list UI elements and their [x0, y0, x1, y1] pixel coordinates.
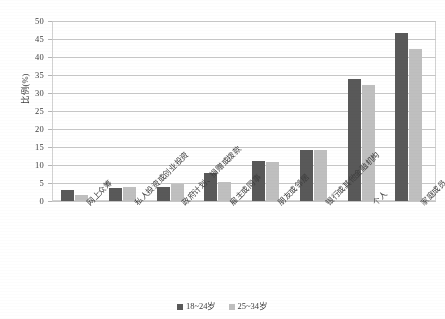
bar [109, 188, 122, 201]
y-tick-label: 5 [20, 179, 44, 188]
x-axis-label: 雇主或同事 [228, 201, 234, 207]
bar [409, 49, 422, 201]
y-tick-mark [48, 147, 52, 148]
y-tick-mark [48, 111, 52, 112]
y-tick-label: 45 [20, 35, 44, 44]
y-tick-mark [48, 183, 52, 184]
legend-swatch [177, 304, 183, 310]
bar-group [101, 22, 149, 201]
y-tick-mark [48, 201, 52, 202]
legend-label: 25~34岁 [238, 302, 269, 311]
y-tick-label: 0 [20, 197, 44, 206]
y-tick-mark [48, 39, 52, 40]
y-axis-title: 比例(%) [18, 49, 30, 129]
bars-layer [53, 22, 435, 201]
bar [157, 187, 170, 201]
bar-group [244, 22, 292, 201]
y-tick-mark [48, 57, 52, 58]
bar-group [53, 22, 101, 201]
x-axis-label: 政府计划、捐赠或拨款 [180, 201, 186, 207]
y-tick-mark [48, 165, 52, 166]
legend-label: 18~24岁 [186, 302, 217, 311]
x-axis-label: 朋友或邻居 [276, 201, 282, 207]
y-tick-mark [48, 93, 52, 94]
y-tick-mark [48, 21, 52, 22]
legend-item[interactable]: 18~24岁 [177, 302, 217, 311]
chart-legend: 18~24岁25~34岁 [0, 302, 445, 311]
y-tick-mark [48, 75, 52, 76]
bar [395, 33, 408, 201]
x-axis-label: 私人投资或创业投资 [133, 201, 139, 207]
y-tick-label: 10 [20, 161, 44, 170]
y-tick-mark [48, 129, 52, 130]
bar [314, 150, 327, 201]
x-axis-label: 网上众筹 [85, 201, 91, 207]
y-tick-label: 15 [20, 143, 44, 152]
x-axis-labels: 网上众筹私人投资或创业投资政府计划、捐赠或拨款雇主或同事朋友或邻居银行或其他金融… [53, 201, 435, 296]
bar [266, 162, 279, 201]
bar [362, 85, 375, 201]
bar-group [196, 22, 244, 201]
bar [61, 190, 74, 201]
x-axis-label: 家庭成员 [419, 201, 425, 207]
y-tick-label: 50 [20, 17, 44, 26]
legend-item[interactable]: 25~34岁 [229, 302, 269, 311]
bar-chart: 05101520253035404550 比例(%) 网上众筹私人投资或创业投资… [0, 0, 445, 319]
x-axis-label: 个人 [371, 201, 377, 207]
legend-swatch [229, 304, 235, 310]
bar-group [387, 22, 435, 201]
x-axis-label: 银行或其他金融机构 [324, 201, 330, 207]
bar-group [292, 22, 340, 201]
